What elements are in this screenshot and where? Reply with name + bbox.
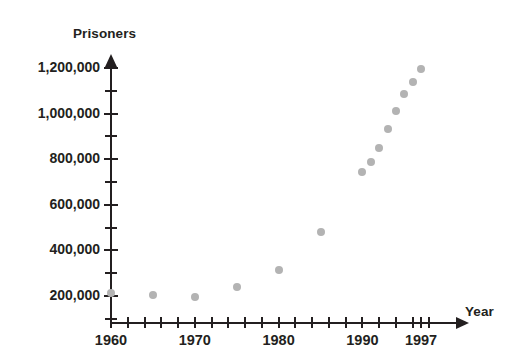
x-axis-tick (328, 317, 330, 328)
x-axis-tick (194, 317, 196, 328)
data-point (409, 78, 417, 86)
data-point (358, 168, 366, 176)
x-axis-tick (144, 317, 146, 328)
y-axis-tick-label: 800,000 (8, 150, 100, 166)
data-point (367, 158, 375, 166)
y-axis-minor-tick (105, 90, 117, 92)
data-point (275, 266, 283, 274)
data-point (384, 125, 392, 133)
x-axis-tick (227, 317, 229, 328)
data-point (417, 65, 425, 73)
y-axis-line (110, 66, 112, 324)
y-axis-tick-label: 200,000 (8, 287, 100, 303)
x-axis-tick (420, 317, 422, 328)
data-point (191, 293, 199, 301)
x-axis-tick (211, 317, 213, 328)
y-axis-minor-tick (105, 135, 117, 137)
x-axis-tick (311, 317, 313, 328)
data-point (317, 228, 325, 236)
x-axis-tick-label: 1970 (160, 332, 230, 348)
x-axis-tick (412, 317, 414, 328)
x-axis-title: Year (465, 304, 494, 319)
scatter-chart: Prisoners Year 200,000400,000600,000800,… (0, 0, 511, 361)
y-axis-major-tick (104, 67, 118, 69)
data-point (392, 107, 400, 115)
x-axis-tick (160, 317, 162, 328)
x-axis-tick-label: 1960 (76, 332, 146, 348)
x-axis-tick-label: 1980 (244, 332, 314, 348)
x-axis-tick (345, 317, 347, 328)
data-point (233, 283, 241, 291)
x-axis-tick (261, 317, 263, 328)
y-axis-major-tick (104, 158, 118, 160)
x-axis-arrow-icon (456, 317, 469, 329)
x-axis-tick (110, 317, 112, 328)
y-axis-minor-tick (105, 272, 117, 274)
x-axis-tick (127, 317, 129, 328)
y-axis-tick-label: 600,000 (8, 196, 100, 212)
y-axis-tick-label: 400,000 (8, 241, 100, 257)
data-point (149, 291, 157, 299)
y-axis-tick-label: 1,000,000 (8, 105, 100, 121)
y-axis-arrow-icon (105, 54, 117, 67)
x-axis-tick (378, 317, 380, 328)
y-axis-major-tick (104, 204, 118, 206)
x-axis-tick (177, 317, 179, 328)
x-axis-tick (294, 317, 296, 328)
x-axis-tick (361, 317, 363, 328)
y-axis-minor-tick (105, 181, 117, 183)
y-axis-minor-tick (105, 227, 117, 229)
x-axis-tick (428, 317, 430, 328)
y-axis-title: Prisoners (73, 26, 136, 41)
data-point (107, 289, 115, 297)
x-axis-tick (244, 317, 246, 328)
y-axis-major-tick (104, 113, 118, 115)
data-point (375, 144, 383, 152)
data-point (400, 90, 408, 98)
x-axis-tick-label: 1997 (386, 332, 456, 348)
y-axis-major-tick (104, 249, 118, 251)
y-axis-tick-label: 1,200,000 (8, 59, 100, 75)
x-axis-tick (278, 317, 280, 328)
x-axis-tick (395, 317, 397, 328)
